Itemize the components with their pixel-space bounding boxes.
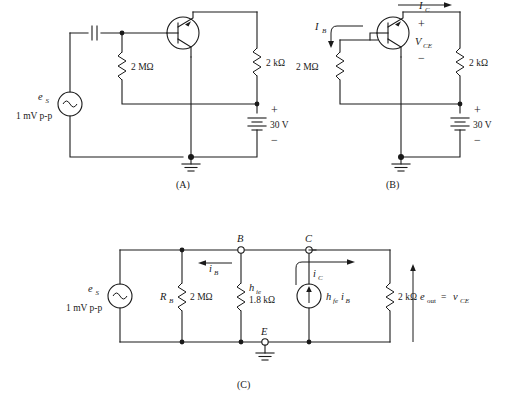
panel-c-vce-subscript: CE (460, 297, 470, 305)
collector-resistor-zigzag-b (456, 48, 464, 76)
panel-c-ic-symbol: i (313, 268, 316, 279)
panel-a (58, 12, 266, 171)
panel-c-eout-subscript: out (427, 297, 436, 305)
panel-b-base-connect (370, 33, 377, 40)
panel-c-current-source-sub1: fe (333, 297, 338, 305)
cs-bottom-node-dot (307, 340, 312, 345)
base-resistor-zigzag-b (336, 52, 344, 80)
ib-arrowhead-b (328, 41, 334, 48)
panel-a-source-subscript: S (46, 97, 50, 105)
panel-b-battery-plus: + (474, 103, 481, 117)
panel-c-eout-equals: = (441, 292, 446, 302)
panel-a-battery-plus: + (271, 103, 278, 117)
panel-b-battery-minus: − (474, 133, 481, 147)
rb-bottom-node-dot (180, 340, 185, 345)
rb-top-node-dot (180, 248, 185, 253)
panel-b-vce-subscript: CE (423, 42, 433, 50)
panel-b-vce-plus: + (418, 17, 425, 31)
panel-a-source-left-wire (70, 33, 183, 157)
panel-c-source-subscript: S (96, 289, 100, 297)
panel-b-right-rail-bottom (401, 130, 460, 157)
panel-a-right-rail-bottom (191, 130, 257, 157)
panel-c-eout-symbol: e (420, 291, 425, 302)
panel-c-current-source-symbol: h (326, 291, 331, 302)
eout-arrowhead (410, 264, 416, 271)
circuit-figure: e S 1 mV p-p 2 MΩ 2 kΩ + 30 V − (A) I B … (0, 0, 510, 402)
panel-a-source-value: 1 mV p-p (16, 111, 52, 121)
panel-c-source-symbol: e (88, 283, 93, 294)
ib-arrowhead-c (198, 260, 206, 266)
panel-a-battery-value: 30 V (270, 120, 289, 130)
panel-c-node-b-label: B (237, 233, 244, 244)
load-resistor-zigzag (386, 283, 394, 311)
base-resistor-lead-bottom (122, 80, 257, 104)
panel-b-ib-symbol: I (314, 21, 319, 32)
panel-b-battery-value: 30 V (473, 120, 492, 130)
panel-c-ic-subscript: C (318, 274, 323, 282)
panel-a-battery-minus: − (271, 133, 278, 147)
ac-source-sine-glyph (63, 101, 77, 107)
ac-source-sine-glyph-c (113, 293, 127, 299)
panel-a-source-symbol: e (38, 91, 43, 102)
panel-b (328, 2, 469, 171)
panel-b-vce-symbol: V (415, 36, 423, 47)
panel-c-current-source-sub2: B (346, 297, 351, 305)
ic-arrowhead-c (347, 259, 355, 265)
panel-c-hie-value: 1.8 kΩ (249, 295, 275, 305)
panel-c-hie-symbol: h (249, 282, 254, 293)
hie-bottom-node-dot (239, 340, 244, 345)
panel-b-base-res-lead-bottom (340, 80, 460, 104)
hie-resistor-zigzag (237, 283, 245, 311)
base-resistor-zigzag (118, 52, 126, 80)
panel-b-base-resistor-label: 2 MΩ (296, 62, 319, 72)
panel-c-caption: (C) (237, 379, 250, 391)
schematic-canvas: e S 1 mV p-p 2 MΩ 2 kΩ + 30 V − (A) I B … (0, 0, 510, 402)
panel-c-rb-value: 2 MΩ (190, 292, 213, 302)
panel-a-base-node-dot (120, 31, 125, 36)
panel-a-base-resistor-label: 2 MΩ (131, 62, 154, 72)
panel-c-rb-symbol: R (159, 291, 167, 302)
panel-b-vce-minus: − (418, 51, 425, 65)
panel-a-supply-node-dot (255, 102, 260, 107)
panel-b-caption: (B) (386, 179, 399, 191)
terminal-b-circle (238, 247, 244, 253)
panel-a-collector-resistor-label: 2 kΩ (266, 58, 285, 68)
panel-c-current-source-mid: i (341, 291, 344, 302)
panel-c-node-e-label: E (260, 326, 268, 337)
panel-c-ib-symbol: i (209, 263, 212, 274)
panel-b-ic-symbol: I (418, 0, 423, 11)
panel-b-ib-subscript: B (322, 27, 327, 35)
panel-a-caption: (A) (176, 179, 190, 191)
collector-resistor-zigzag-a (253, 48, 261, 76)
panel-c-vce-symbol: v (453, 291, 458, 302)
panel-c-rb-subscript: B (169, 297, 174, 305)
panel-c-source-value: 1 mV p-p (66, 303, 102, 313)
panel-b-supply-node-dot (458, 102, 463, 107)
panel-c-ib-subscript: B (214, 269, 219, 277)
panel-b-ic-subscript: C (425, 6, 430, 14)
panel-c-node-c-label: C (305, 233, 313, 244)
panel-c-load-resistor-label: 2 kΩ (398, 292, 417, 302)
terminal-e-circle (262, 339, 268, 345)
ic-arrowhead-b (444, 2, 452, 8)
cs-arrowhead (306, 286, 312, 292)
rb-resistor-zigzag (178, 283, 186, 311)
panel-b-collector-resistor-label: 2 kΩ (469, 58, 488, 68)
